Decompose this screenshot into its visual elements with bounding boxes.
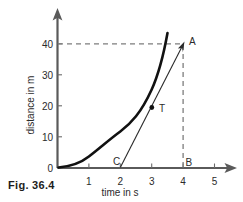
tangent-line-group (120, 42, 184, 168)
y-axis-title: distance in m (25, 76, 36, 135)
figure-36-4: 1 2 3 4 5 0 10 20 30 40 time in s distan… (0, 0, 243, 202)
x-axis-title: time in s (101, 187, 138, 198)
point-label-C: C (113, 156, 120, 167)
x-tick-label-4: 4 (180, 176, 186, 187)
y-tick-label-40: 40 (42, 39, 54, 50)
x-tick-label-1: 1 (86, 176, 92, 187)
y-tick-label-10: 10 (42, 132, 54, 143)
axes-group (53, 8, 237, 173)
point-label-T: T (159, 103, 165, 114)
point-label-A: A (189, 36, 196, 47)
x-tick-label-5: 5 (212, 176, 218, 187)
x-tick-labels: 1 2 3 4 5 (86, 176, 218, 187)
point-label-B: B (186, 157, 193, 168)
tangent-arrowhead-icon (178, 42, 185, 53)
figure-caption: Fig. 36.4 (8, 179, 55, 191)
x-tick-label-2: 2 (118, 176, 124, 187)
y-tick-label-20: 20 (42, 101, 54, 112)
y-tick-labels: 0 10 20 30 40 (42, 39, 54, 174)
point-marker-T (149, 105, 154, 110)
distance-time-curve (59, 33, 168, 168)
y-tick-label-0: 0 (47, 163, 53, 174)
x-tick-label-3: 3 (149, 176, 155, 187)
distance-time-graph: 1 2 3 4 5 0 10 20 30 40 time in s distan… (0, 0, 243, 202)
y-tick-label-30: 30 (42, 70, 54, 81)
